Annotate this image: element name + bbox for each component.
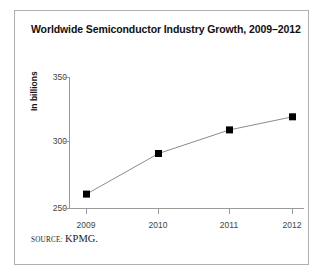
line-chart-svg [15,11,310,266]
x-axis-ticks [87,209,293,215]
data-point-2010 [155,150,162,157]
source-value: KPMG. [65,233,98,244]
plot-area: In billions 350 300 250 2009 2010 2011 2… [15,11,310,266]
chart-axes [69,77,304,209]
source-note: SOURCE: KPMG. [31,233,98,244]
series-line [87,117,293,194]
data-point-2012 [289,113,296,120]
source-label: SOURCE: [31,236,63,244]
series-markers [83,113,296,197]
y-axis-ticks [64,78,69,209]
data-point-2009 [83,191,90,198]
data-point-2011 [226,126,233,133]
chart-figure: Worldwide Semiconductor Industry Growth,… [14,10,309,265]
